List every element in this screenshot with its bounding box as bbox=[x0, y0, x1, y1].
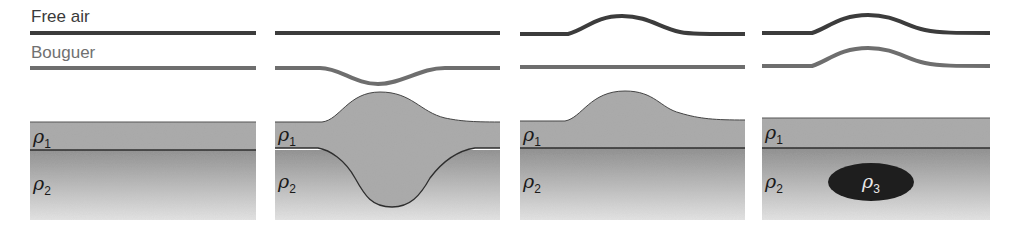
bouguer-anomaly-line bbox=[762, 48, 990, 66]
layer-rho1 bbox=[30, 122, 256, 150]
gravity-anomaly-diagram: ρ1 ρ2 ρ1 ρ2 ρ1 ρ2 bbox=[0, 0, 1014, 229]
free-air-anomaly-line bbox=[520, 16, 745, 34]
layer-rho1 bbox=[762, 118, 990, 148]
panel-3: ρ1 ρ2 bbox=[520, 16, 745, 220]
layer-rho2 bbox=[30, 150, 256, 220]
layer-rho2 bbox=[520, 148, 745, 220]
panel-4: ρ1 ρ2 ρ3 bbox=[762, 15, 990, 220]
layer-rho1-mountain bbox=[520, 91, 745, 148]
free-air-anomaly-line bbox=[762, 15, 990, 33]
panel-2: ρ1 ρ2 bbox=[275, 33, 500, 220]
panel-1: ρ1 ρ2 bbox=[30, 33, 256, 220]
bouguer-anomaly-line bbox=[275, 68, 500, 84]
